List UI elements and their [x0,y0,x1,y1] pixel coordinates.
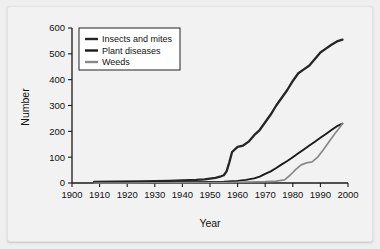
x-tick-label-1970: 1970 [255,189,276,200]
x-tick-label-1940: 1940 [172,189,193,200]
series-line-weeds [94,124,342,183]
x-tick-label-1920: 1920 [117,189,138,200]
x-axis-ticks: 1900191019201930194019501960197019801990… [61,183,358,200]
y-tick-label-100: 100 [49,152,65,163]
x-tick-label-1900: 1900 [61,189,82,200]
x-tick-label-2000: 2000 [337,189,358,200]
y-axis-ticks: 0100200300400500600 [49,22,72,188]
legend-label-2: Weeds [102,57,130,67]
y-tick-label-400: 400 [49,74,65,85]
legend-label-0: Insects and mites [102,34,173,44]
x-tick-label-1910: 1910 [89,189,110,200]
series-line-plant-diseases [94,124,342,183]
legend-label-1: Plant diseases [102,46,161,56]
x-tick-label-1930: 1930 [144,189,165,200]
x-tick-label-1990: 1990 [310,189,331,200]
y-tick-label-300: 300 [49,100,65,111]
y-tick-label-0: 0 [60,177,65,188]
y-tick-label-600: 600 [49,22,65,33]
y-tick-label-200: 200 [49,126,65,137]
y-tick-label-500: 500 [49,48,65,59]
x-tick-label-1980: 1980 [282,189,303,200]
x-axis-title: Year [199,217,221,229]
chart-legend: Insects and mitesPlant diseasesWeeds [79,28,180,70]
y-axis-title: Number [19,88,31,126]
x-tick-label-1960: 1960 [227,189,248,200]
x-tick-label-1950: 1950 [199,189,220,200]
chart-plot-area: 0100200300400500600 19001910192019301940… [0,0,380,249]
line-chart: 0100200300400500600 19001910192019301940… [0,0,380,249]
